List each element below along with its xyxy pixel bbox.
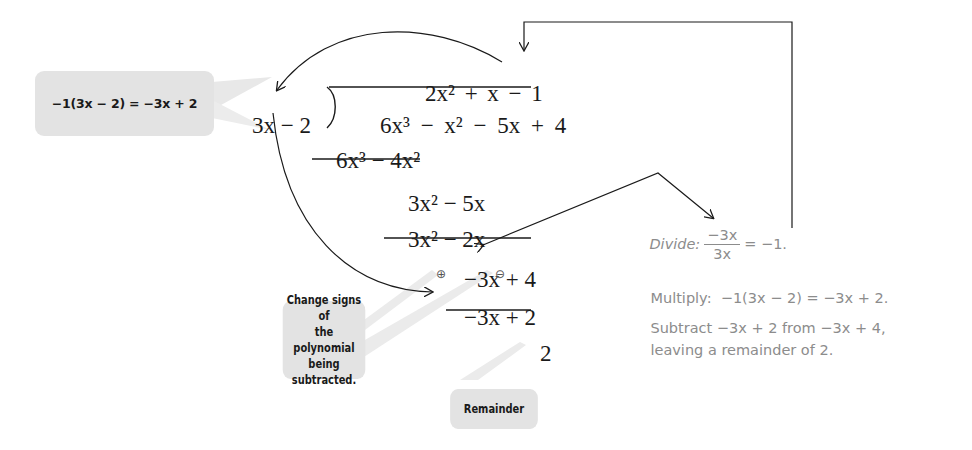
step-divide-label: Divide:: [649, 236, 700, 252]
callout-multiply-text: −1(3x − 2) = −3x + 2: [52, 96, 198, 111]
callout-change-signs-line-2: the polynomial: [283, 324, 366, 356]
callout-change-signs-line-1: Change signs of: [283, 292, 366, 324]
step-divide-fraction: −3x3x: [704, 226, 740, 263]
callout-remainder: Remainder: [450, 389, 538, 429]
minus-circle-icon: ⊖: [495, 268, 505, 280]
plus-circle-icon: ⊕: [436, 268, 446, 280]
long-division-diagram: −1(3x − 2) = −3x + 2 3x − 2 2x² + x − 1 …: [0, 0, 972, 450]
callout-change-signs-line-3: being subtracted.: [283, 356, 366, 388]
divisor: 3x − 2: [229, 90, 311, 162]
callout-multiply-equation: −1(3x − 2) = −3x + 2: [35, 71, 214, 136]
remainder-value: 2: [517, 318, 552, 390]
callout-change-signs: Change signs of the polynomial being sub…: [283, 301, 366, 379]
step-subtract-line-2: leaving a remainder of 2.: [632, 320, 833, 380]
step-divide-result: = −1.: [744, 236, 787, 252]
division-bracket: [327, 87, 335, 128]
